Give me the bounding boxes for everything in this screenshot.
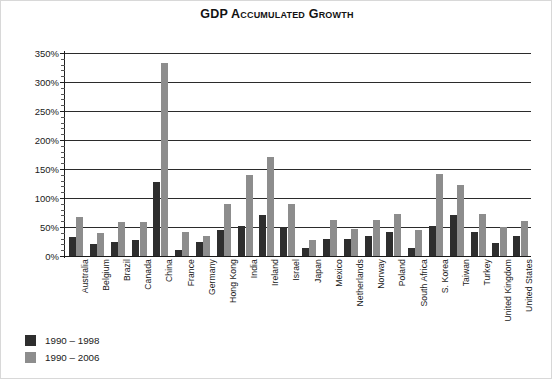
bar <box>238 226 245 256</box>
bar-group <box>513 53 528 256</box>
x-tick-label: United States <box>524 259 534 312</box>
bar <box>429 226 436 256</box>
bar <box>500 227 507 256</box>
gridline <box>65 256 531 257</box>
x-tick-label: South Africa <box>419 259 429 307</box>
x-tick-label: Australia <box>80 259 90 293</box>
x-tick-label: Poland <box>397 259 407 286</box>
x-tick-label: United Kingdom <box>503 259 513 322</box>
bar <box>203 236 210 256</box>
y-tick-label: 150% <box>11 164 59 175</box>
x-tick-label: Brazil <box>122 259 132 281</box>
bar <box>140 222 147 256</box>
bar <box>118 222 125 256</box>
bar-group <box>344 53 359 256</box>
x-tick-label: France <box>186 259 196 286</box>
bar-group <box>69 53 84 256</box>
legend-item: 1990 – 1998 <box>25 332 99 349</box>
bar-group <box>217 53 232 256</box>
bar <box>513 236 520 256</box>
bar <box>76 217 83 256</box>
bar <box>415 230 422 256</box>
y-tick-label: 50% <box>11 222 59 233</box>
bar <box>436 174 443 256</box>
x-tick-label: Japan <box>313 259 323 283</box>
x-tick-label: Mexico <box>334 259 344 287</box>
bar-group <box>153 53 168 256</box>
chart-title: GDP Accumulated Growth <box>1 7 552 21</box>
legend-swatch <box>25 335 36 346</box>
bar-group <box>386 53 401 256</box>
bar <box>479 214 486 256</box>
bar <box>365 236 372 256</box>
y-tick-label: 300% <box>11 77 59 88</box>
bar <box>471 232 478 256</box>
bar <box>457 185 464 256</box>
bar <box>259 215 266 256</box>
bar <box>97 233 104 256</box>
bar <box>161 63 168 256</box>
bar <box>302 248 309 256</box>
bar <box>330 220 337 256</box>
bar-group <box>132 53 147 256</box>
bar-group <box>323 53 338 256</box>
bar-group <box>492 53 507 256</box>
bar <box>224 204 231 256</box>
x-tick-label: Ireland <box>270 259 280 286</box>
bar-group <box>302 53 317 256</box>
y-axis-labels: 0%50%100%150%200%250%300%350% <box>9 53 59 256</box>
chart-legend: 1990 – 19981990 – 2006 <box>25 332 99 366</box>
bar-group <box>408 53 423 256</box>
bar <box>351 229 358 256</box>
x-tick-label: India <box>249 259 259 278</box>
bar <box>386 232 393 256</box>
x-tick-label: Netherlands <box>355 259 365 306</box>
bar-group <box>238 53 253 256</box>
bar <box>111 242 118 257</box>
y-tick-label: 200% <box>11 135 59 146</box>
bar <box>394 214 401 256</box>
x-tick-label: Israel <box>291 259 301 281</box>
x-tick-label: Turkey <box>482 259 492 286</box>
bar <box>288 204 295 256</box>
legend-label: 1990 – 1998 <box>45 335 99 346</box>
bar-group <box>196 53 211 256</box>
bar-group <box>90 53 105 256</box>
bar <box>373 220 380 256</box>
plot-area <box>65 53 531 256</box>
x-tick-label: Belgium <box>101 259 111 291</box>
legend-swatch <box>25 352 36 363</box>
x-axis-labels: AustraliaBelgiumBrazilCanadaChinaFranceG… <box>65 259 531 329</box>
x-tick-label: Taiwan <box>461 259 471 286</box>
x-tick-label: Canada <box>143 259 153 290</box>
bar <box>196 242 203 256</box>
bar <box>217 230 224 256</box>
bar <box>182 232 189 256</box>
bar-group <box>429 53 444 256</box>
bar <box>175 250 182 256</box>
bar-group <box>471 53 486 256</box>
bar-group <box>259 53 274 256</box>
y-tick-label: 0% <box>11 251 59 262</box>
bar <box>492 243 499 256</box>
bar <box>408 248 415 256</box>
bar <box>246 175 253 256</box>
bar <box>153 182 160 256</box>
y-tick-label: 350% <box>11 48 59 59</box>
bar <box>450 215 457 256</box>
bar <box>69 237 76 256</box>
x-tick-label: China <box>164 259 174 282</box>
bar <box>344 239 351 256</box>
bar <box>309 240 316 256</box>
y-tick-label: 100% <box>11 193 59 204</box>
x-tick-label: Hong Kong <box>228 259 238 303</box>
bar-group <box>450 53 465 256</box>
bar <box>132 240 139 256</box>
bar-group <box>175 53 190 256</box>
bar <box>280 227 287 256</box>
x-tick-label: S. Korea <box>440 259 450 293</box>
bar <box>267 157 274 256</box>
bar <box>323 239 330 256</box>
bar-group <box>111 53 126 256</box>
bar-group <box>280 53 295 256</box>
